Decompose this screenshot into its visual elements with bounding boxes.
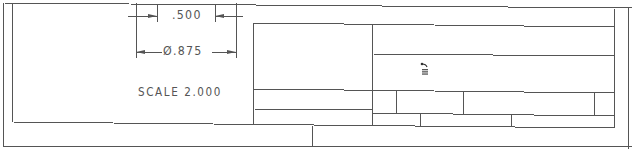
dimension-width: .500 bbox=[172, 7, 202, 22]
tb-top bbox=[253, 23, 614, 27]
drawing-sheet: .500 Ø.875 SCALE 2.000 bbox=[0, 0, 632, 149]
arrow-875-left-icon bbox=[136, 50, 145, 54]
arrow-500-right-icon bbox=[215, 14, 224, 18]
scale-label: SCALE 2.000 bbox=[138, 84, 222, 99]
arrow-500-left-icon bbox=[148, 14, 157, 18]
tb-row-3 bbox=[253, 109, 372, 110]
drawing-lines bbox=[0, 0, 632, 149]
dimension-diameter: Ø.875 bbox=[163, 43, 203, 58]
revision-arrow-icon[interactable] bbox=[420, 61, 430, 80]
tb-row-4 bbox=[372, 113, 614, 116]
tb-row-2 bbox=[253, 89, 614, 93]
arrow-875-right-icon bbox=[227, 50, 236, 54]
inner-border-bottom bbox=[12, 122, 614, 128]
outer-border-top bbox=[3, 3, 632, 8]
tb-row-1 bbox=[372, 54, 614, 56]
